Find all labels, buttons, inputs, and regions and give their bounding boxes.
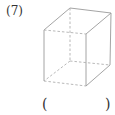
cube-figure <box>0 0 115 115</box>
answer-paren-close: ) <box>105 96 110 112</box>
answer-paren-open: ( <box>42 96 47 112</box>
